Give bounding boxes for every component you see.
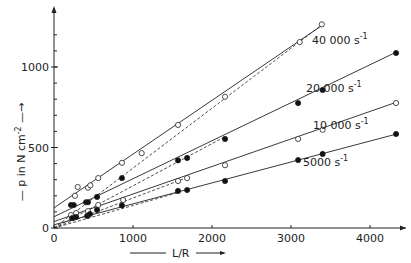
open-circle-marker	[297, 39, 302, 44]
open-circle-marker	[222, 163, 227, 168]
series-3	[54, 131, 399, 228]
open-circle-marker	[185, 175, 190, 180]
x-label-arrow-icon	[220, 251, 226, 255]
open-circle-marker	[96, 175, 101, 180]
filled-circle-marker	[393, 50, 398, 55]
x-tick-label: 0	[51, 232, 58, 245]
filled-circle-marker	[185, 187, 190, 192]
fit-line	[54, 52, 396, 217]
open-circle-marker	[72, 193, 77, 198]
x-tick-label: 1000	[119, 232, 147, 245]
series-1	[54, 50, 399, 228]
filled-circle-marker	[296, 157, 301, 162]
x-axis-arrow-icon	[400, 226, 406, 231]
series-label: 40 000 s-1	[312, 32, 368, 47]
y-tick-label: 0	[42, 222, 49, 235]
open-circle-marker	[75, 184, 80, 189]
open-circle-marker	[139, 151, 144, 156]
filled-circle-marker	[393, 131, 398, 136]
chart: 0100020003000400005001000— p in N cm-2 —…	[0, 0, 411, 263]
series-label: 10 000 s-1	[313, 117, 369, 132]
filled-circle-marker	[71, 202, 76, 207]
y-tick-label: 500	[28, 142, 49, 155]
y-tick-label: 1000	[21, 61, 49, 74]
y-axis-label: — p in N cm-2 —→	[14, 103, 28, 202]
x-tick-label: 3000	[277, 232, 305, 245]
open-circle-marker	[296, 136, 301, 141]
filled-circle-marker	[175, 188, 180, 193]
filled-circle-marker	[94, 194, 99, 199]
filled-circle-marker	[119, 175, 124, 180]
filled-circle-marker	[185, 155, 190, 160]
x-tick-label: 2000	[198, 232, 226, 245]
open-circle-marker	[393, 100, 398, 105]
series-labels: 40 000 s-120 000 s-110 000 s-15000 s-1	[303, 32, 369, 169]
origin-line	[54, 193, 178, 228]
filled-circle-marker	[74, 214, 79, 219]
open-circle-marker	[175, 122, 180, 127]
open-circle-marker	[121, 197, 126, 202]
filled-circle-marker	[85, 200, 90, 205]
filled-circle-marker	[119, 203, 124, 208]
open-circle-marker	[88, 183, 93, 188]
series-label: 5000 s-1	[303, 154, 348, 169]
filled-circle-marker	[175, 158, 180, 163]
filled-circle-marker	[87, 211, 92, 216]
open-circle-marker	[319, 22, 324, 27]
x-axis-label: L/R	[172, 247, 190, 260]
filled-circle-marker	[296, 100, 301, 105]
x-tick-label: 4000	[356, 232, 384, 245]
open-circle-marker	[222, 94, 227, 99]
filled-circle-marker	[94, 207, 99, 212]
open-circle-marker	[175, 178, 180, 183]
filled-circle-marker	[222, 178, 227, 183]
filled-circle-marker	[222, 136, 227, 141]
y-axis-arrow-icon	[52, 6, 57, 13]
series-label: 20 000 s-1	[306, 80, 362, 95]
open-circle-marker	[119, 160, 124, 165]
open-circle-marker	[96, 202, 101, 207]
origin-line	[54, 137, 225, 228]
